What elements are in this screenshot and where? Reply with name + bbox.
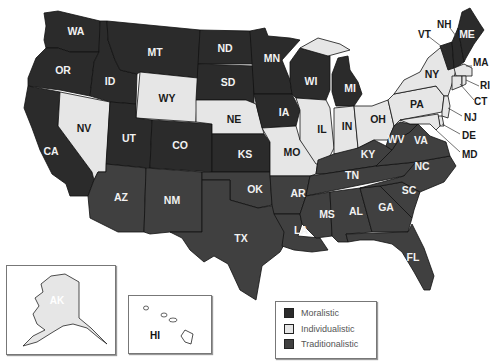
label-SC: SC	[402, 184, 417, 196]
label-WI: WI	[305, 75, 318, 87]
label-OR: OR	[55, 64, 71, 76]
label-IL: IL	[317, 123, 327, 135]
label-PA: PA	[410, 98, 424, 110]
alaska-inset: AK	[6, 265, 116, 355]
swatch-moralistic	[284, 308, 294, 318]
label-NE: NE	[227, 113, 242, 125]
state-CT[interactable]	[452, 76, 462, 90]
label-MT: MT	[147, 46, 163, 58]
label-AK: AK	[50, 295, 65, 306]
legend-item-individualistic: Individualistic	[284, 322, 355, 336]
label-AL: AL	[349, 205, 364, 217]
swatch-traditionalistic	[284, 339, 294, 349]
label-ME: ME	[459, 28, 475, 40]
label-MI: MI	[344, 82, 356, 94]
label-GA: GA	[378, 201, 394, 213]
label-TX: TX	[234, 232, 247, 244]
label-MA: MA	[473, 57, 489, 68]
label-KY: KY	[361, 148, 376, 160]
label-HI: HI	[150, 330, 160, 341]
label-TN: TN	[345, 169, 359, 181]
label-IN: IN	[342, 120, 353, 132]
label-CA: CA	[43, 145, 59, 157]
label-UT: UT	[122, 132, 137, 144]
legend: Moralistic Individualistic Traditionalis…	[275, 301, 377, 359]
label-RI: RI	[480, 80, 490, 91]
state-FL[interactable]	[346, 224, 434, 290]
legend-item-moralistic: Moralistic	[284, 306, 339, 320]
label-ID: ID	[105, 75, 116, 87]
label-NC: NC	[414, 160, 430, 172]
label-NJ: NJ	[464, 112, 477, 123]
label-MS: MS	[319, 208, 335, 220]
label-MD: MD	[462, 149, 478, 160]
label-KS: KS	[238, 148, 253, 160]
label-NM: NM	[164, 194, 181, 206]
state-AK[interactable]	[23, 274, 107, 346]
state-HI[interactable]	[181, 330, 193, 344]
label-VT: VT	[418, 29, 431, 40]
label-SD: SD	[221, 76, 236, 88]
state-MI[interactable]	[332, 56, 362, 106]
state-NJ[interactable]	[442, 96, 450, 118]
label-NY: NY	[425, 68, 440, 80]
label-OK: OK	[247, 183, 263, 195]
label-ND: ND	[217, 42, 233, 54]
label-WY: WY	[159, 92, 176, 104]
label-AZ: AZ	[114, 191, 129, 203]
label-DE: DE	[462, 130, 476, 141]
label-WA: WA	[68, 25, 85, 37]
state-RI[interactable]	[462, 76, 466, 86]
legend-item-traditionalistic: Traditionalistic	[284, 337, 358, 351]
label-CT: CT	[474, 96, 487, 107]
label-FL: FL	[407, 251, 420, 263]
label-CO: CO	[172, 139, 188, 151]
hawaii-inset: HI	[128, 295, 212, 354]
label-WV: WV	[388, 133, 405, 145]
state-IA[interactable]	[254, 94, 300, 128]
label-IA: IA	[279, 106, 290, 118]
label-MO: MO	[284, 146, 301, 158]
label-AR: AR	[290, 187, 306, 199]
label-OH: OH	[370, 113, 386, 125]
swatch-individualistic	[284, 324, 294, 334]
label-NH: NH	[437, 19, 451, 30]
state-WI[interactable]	[290, 48, 330, 100]
label-MN: MN	[264, 52, 280, 64]
label-NV: NV	[77, 122, 92, 134]
label-LA: LA	[294, 224, 308, 236]
label-VA: VA	[414, 134, 428, 146]
